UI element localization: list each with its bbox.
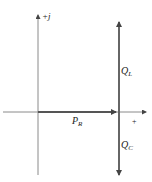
vertical-axis-label: +j	[42, 11, 51, 21]
horizontal-axis-label: +	[132, 117, 137, 126]
ql-label: QL	[121, 65, 132, 78]
qc-label: QC	[121, 139, 133, 152]
power-phasor-diagram: +j + PR QL QC	[0, 0, 152, 182]
pr-label: PR	[71, 115, 83, 128]
